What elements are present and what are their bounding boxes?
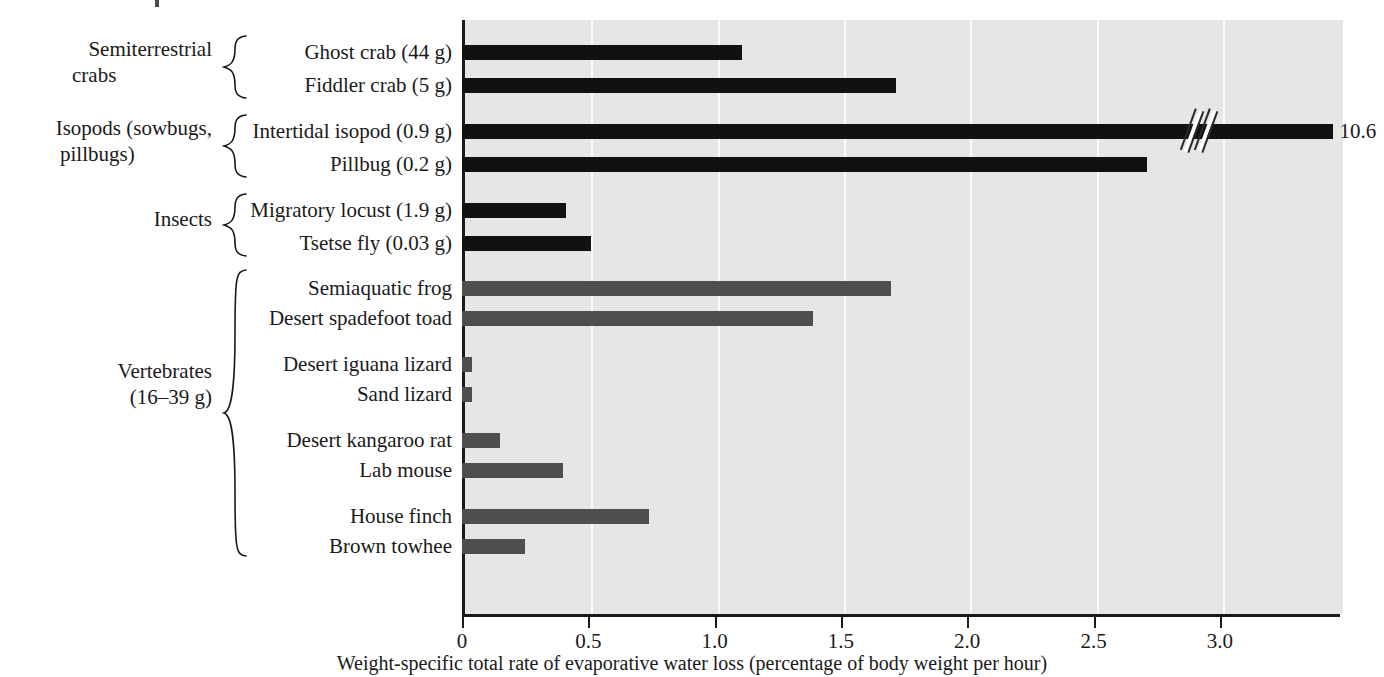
x-axis-tick-label: 0.5 bbox=[553, 629, 623, 653]
group-label-line: (16–39 g) bbox=[0, 384, 212, 410]
bar bbox=[462, 463, 563, 478]
bar bbox=[462, 45, 742, 60]
group-label-line: Semiterrestrial bbox=[0, 36, 212, 62]
x-axis-tick bbox=[841, 617, 843, 628]
bar bbox=[462, 281, 891, 296]
group-label-line: pillbugs) bbox=[0, 141, 212, 167]
x-axis-tick-label: 0 bbox=[427, 629, 497, 653]
x-axis-title: Weight-specific total rate of evaporativ… bbox=[0, 652, 1384, 675]
bar-value-label: 10.6 bbox=[1339, 120, 1376, 142]
bar bbox=[462, 311, 813, 326]
group-label-isopods: Isopods (sowbugs,pillbugs) bbox=[0, 115, 212, 167]
group-brace bbox=[222, 192, 248, 258]
group-brace bbox=[222, 113, 248, 179]
group-brace bbox=[222, 268, 248, 558]
x-axis-tick bbox=[715, 617, 717, 628]
group-label-insects: Insects bbox=[0, 206, 212, 232]
page-edge-artifact bbox=[155, 0, 159, 7]
bar bbox=[462, 78, 896, 93]
x-axis-tick-label: 2.0 bbox=[932, 629, 1002, 653]
bar bbox=[462, 509, 649, 524]
x-axis-tick-label: 3.0 bbox=[1185, 629, 1255, 653]
x-axis-line bbox=[462, 614, 1340, 617]
bar bbox=[462, 539, 525, 554]
x-axis-tick-label: 1.5 bbox=[806, 629, 876, 653]
bar bbox=[462, 387, 472, 402]
group-label-line: Isopods (sowbugs, bbox=[0, 115, 212, 141]
group-brace bbox=[222, 34, 248, 100]
figure-root: 00.51.01.52.02.53.0Ghost crab (44 g)Fidd… bbox=[0, 0, 1384, 677]
bar bbox=[462, 203, 566, 218]
gridline bbox=[1097, 20, 1099, 614]
gridline bbox=[970, 20, 972, 614]
x-axis-tick-label: 1.0 bbox=[680, 629, 750, 653]
gridline bbox=[844, 20, 846, 614]
x-axis-tick bbox=[462, 617, 464, 628]
group-label-semiterrestrial-crabs: Semiterrestrialcrabs bbox=[0, 36, 212, 88]
bar bbox=[462, 157, 1147, 172]
group-label-line: crabs bbox=[0, 62, 212, 88]
group-label-line: Insects bbox=[0, 206, 212, 232]
x-axis-tick bbox=[588, 617, 590, 628]
bar bbox=[462, 357, 472, 372]
x-axis-tick-label: 2.5 bbox=[1059, 629, 1129, 653]
axis-break-marker bbox=[1175, 109, 1229, 153]
group-label-vertebrates: Vertebrates(16–39 g) bbox=[0, 358, 212, 410]
x-axis-tick bbox=[1094, 617, 1096, 628]
x-axis-tick bbox=[967, 617, 969, 628]
x-axis-tick bbox=[1220, 617, 1222, 628]
bar bbox=[462, 433, 500, 448]
bar bbox=[462, 236, 591, 251]
group-label-line: Vertebrates bbox=[0, 358, 212, 384]
